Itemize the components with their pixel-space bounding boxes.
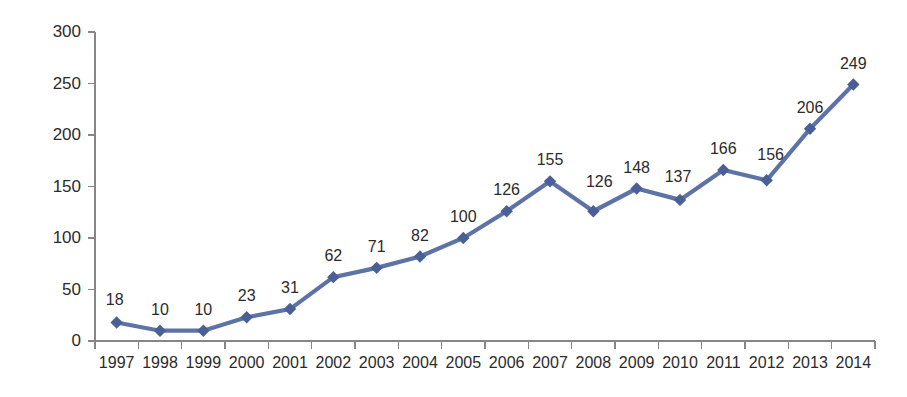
data-point-label: 156 bbox=[757, 146, 784, 163]
x-tick-label: 2010 bbox=[662, 354, 698, 371]
data-point-label: 10 bbox=[151, 301, 169, 318]
y-tick-label: 200 bbox=[53, 125, 81, 144]
x-tick-label: 2012 bbox=[749, 354, 785, 371]
y-tick-label: 150 bbox=[53, 177, 81, 196]
data-point-label: 23 bbox=[238, 287, 256, 304]
data-point-label: 206 bbox=[797, 99, 824, 116]
y-tick-label: 300 bbox=[53, 22, 81, 41]
x-tick-label: 2004 bbox=[402, 354, 438, 371]
x-tick-label: 2002 bbox=[316, 354, 352, 371]
data-label-group: 1810102331627182100126155126148137166156… bbox=[106, 55, 867, 318]
data-point-label: 126 bbox=[586, 173, 613, 190]
data-point-label: 82 bbox=[411, 227, 429, 244]
series-line bbox=[117, 85, 854, 331]
x-tick-label: 1998 bbox=[142, 354, 178, 371]
x-tick-label: 2009 bbox=[619, 354, 655, 371]
data-point-marker bbox=[154, 325, 166, 337]
x-tick-group bbox=[95, 341, 875, 349]
data-point-label: 249 bbox=[840, 55, 867, 72]
x-tick-label: 2014 bbox=[836, 354, 872, 371]
y-tick-label: 250 bbox=[53, 74, 81, 93]
x-tick-label-group: 1997199819992000200120022003200420052006… bbox=[99, 354, 871, 371]
data-point-label: 137 bbox=[665, 168, 692, 185]
y-tick-label: 50 bbox=[62, 280, 81, 299]
chart-canvas: 050100150200250300 181010233162718210012… bbox=[0, 0, 907, 397]
x-tick-label: 2008 bbox=[576, 354, 612, 371]
y-axis: 050100150200250300 bbox=[53, 22, 95, 350]
data-point-label: 18 bbox=[106, 291, 124, 308]
x-tick-label: 1999 bbox=[186, 354, 222, 371]
x-tick-label: 2006 bbox=[489, 354, 525, 371]
x-tick-label: 2007 bbox=[532, 354, 568, 371]
y-tick-group: 050100150200250300 bbox=[53, 22, 95, 350]
data-point-label: 148 bbox=[623, 159, 650, 176]
x-tick-label: 2000 bbox=[229, 354, 265, 371]
data-point-label: 166 bbox=[710, 140, 737, 157]
x-axis bbox=[95, 341, 875, 349]
x-tick-label: 2011 bbox=[706, 354, 741, 371]
y-tick-label: 100 bbox=[53, 228, 81, 247]
data-series bbox=[110, 78, 859, 337]
data-point-label: 71 bbox=[368, 238, 386, 255]
x-tick-label: 2013 bbox=[792, 354, 828, 371]
line-chart: 050100150200250300 181010233162718210012… bbox=[0, 0, 907, 397]
data-point-label: 62 bbox=[324, 247, 342, 264]
data-point-label: 31 bbox=[281, 279, 299, 296]
data-point-label: 10 bbox=[194, 301, 212, 318]
data-point-marker bbox=[370, 262, 382, 274]
x-tick-label: 2005 bbox=[446, 354, 482, 371]
x-tick-label: 1997 bbox=[99, 354, 135, 371]
y-tick-label: 0 bbox=[72, 331, 81, 350]
data-point-marker bbox=[197, 325, 209, 337]
x-tick-label: 2001 bbox=[272, 354, 308, 371]
series-marker-group bbox=[110, 78, 859, 337]
data-point-label: 100 bbox=[450, 208, 477, 225]
data-point-label: 155 bbox=[537, 151, 564, 168]
data-point-marker bbox=[110, 316, 122, 328]
x-tick-label: 2003 bbox=[359, 354, 395, 371]
data-point-marker bbox=[240, 311, 252, 323]
data-point-marker bbox=[414, 250, 426, 262]
data-point-label: 126 bbox=[493, 181, 520, 198]
